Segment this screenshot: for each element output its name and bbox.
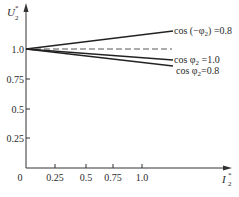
y-axis-arrow-icon — [24, 3, 29, 12]
y-axis-label: U 2 * — [7, 4, 19, 22]
chart-canvas: 0.25 0.5 0.75 1.0 0 0.25 0.5 0.75 1.0 U … — [0, 0, 239, 197]
svg-text:*: * — [15, 4, 19, 12]
curve-unity-pf — [26, 49, 173, 60]
y-tick-label: 1.0 — [12, 44, 25, 55]
y-tick-label: 0.75 — [7, 74, 25, 85]
y-tick-label: 0.5 — [12, 104, 25, 115]
x-tick-label: 0.75 — [104, 172, 122, 183]
svg-text:2: 2 — [228, 180, 232, 188]
label-leading-pf: cos (−φ2) =0.8 — [174, 25, 232, 38]
curve-lagging-pf-0.8 — [26, 49, 173, 66]
y-ticks — [26, 49, 30, 138]
x-ticks — [55, 164, 142, 168]
curve-leading-pf-0.8 — [26, 31, 173, 49]
svg-text:2: 2 — [15, 14, 19, 22]
y-tick-label: 0.25 — [7, 133, 25, 144]
svg-text:I: I — [221, 173, 227, 185]
x-axis-label: I 2 * — [221, 171, 232, 188]
x-tick-label: 0.25 — [46, 172, 64, 183]
origin-label: 0 — [18, 172, 23, 183]
x-tick-label: 0.5 — [80, 172, 93, 183]
x-tick-label: 1.0 — [136, 172, 149, 183]
x-axis-arrow-icon — [223, 166, 232, 171]
svg-text:*: * — [228, 171, 232, 179]
